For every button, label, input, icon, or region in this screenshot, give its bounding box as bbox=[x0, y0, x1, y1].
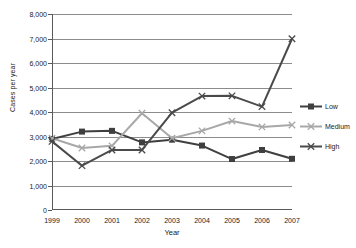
legend-swatch-low bbox=[300, 102, 322, 111]
x-tick-label: 2004 bbox=[194, 217, 210, 224]
legend-swatch-medium bbox=[300, 122, 322, 131]
x-tick-label: 2002 bbox=[134, 217, 150, 224]
data-point-marker bbox=[289, 156, 295, 162]
y-tick-label: 5,000 bbox=[29, 84, 47, 91]
data-point-marker bbox=[259, 147, 265, 153]
y-tick-label: 2,000 bbox=[29, 158, 47, 165]
legend-swatch-high bbox=[300, 142, 322, 151]
data-point-marker bbox=[139, 110, 145, 116]
y-axis-title: Cases per year bbox=[9, 48, 16, 128]
y-tick-label: 7,000 bbox=[29, 35, 47, 42]
x-tick-label: 2003 bbox=[164, 217, 180, 224]
legend-label: High bbox=[325, 143, 339, 150]
x-tick-label: 1999 bbox=[44, 217, 60, 224]
data-point-marker bbox=[79, 162, 85, 168]
data-point-marker bbox=[199, 143, 205, 149]
y-tick-label: 4,000 bbox=[29, 109, 47, 116]
series-line bbox=[52, 131, 292, 159]
y-tick-label: 8,000 bbox=[29, 11, 47, 18]
y-tick-label: 1,000 bbox=[29, 182, 47, 189]
legend-item-high[interactable]: High bbox=[300, 142, 350, 151]
y-tick-label: 3,000 bbox=[29, 133, 47, 140]
x-axis-title: Year bbox=[52, 228, 292, 237]
chart-legend: LowMediumHigh bbox=[300, 102, 350, 151]
legend-item-low[interactable]: Low bbox=[300, 102, 350, 111]
x-tick-label: 2007 bbox=[284, 217, 300, 224]
data-point-marker bbox=[229, 156, 235, 162]
y-tick-label: 6,000 bbox=[29, 60, 47, 67]
legend-item-medium[interactable]: Medium bbox=[300, 122, 350, 131]
legend-label: Medium bbox=[325, 123, 350, 130]
x-tick-label: 2001 bbox=[104, 217, 120, 224]
x-tick-label: 2006 bbox=[254, 217, 270, 224]
data-point-marker bbox=[139, 139, 145, 145]
legend-label: Low bbox=[325, 103, 338, 110]
y-tick-mark bbox=[48, 210, 52, 211]
y-tick-label: 0 bbox=[43, 207, 47, 214]
plot-area: 01,0002,0003,0004,0005,0006,0007,0008,00… bbox=[52, 14, 292, 210]
data-point-marker bbox=[169, 110, 175, 116]
x-tick-label: 2000 bbox=[74, 217, 90, 224]
data-point-marker bbox=[79, 129, 85, 135]
line-chart: Cases per year 01,0002,0003,0004,0005,00… bbox=[0, 0, 356, 248]
series-lines bbox=[52, 14, 292, 210]
x-tick-label: 2005 bbox=[224, 217, 240, 224]
data-point-marker bbox=[308, 104, 314, 110]
data-point-marker bbox=[109, 128, 115, 134]
